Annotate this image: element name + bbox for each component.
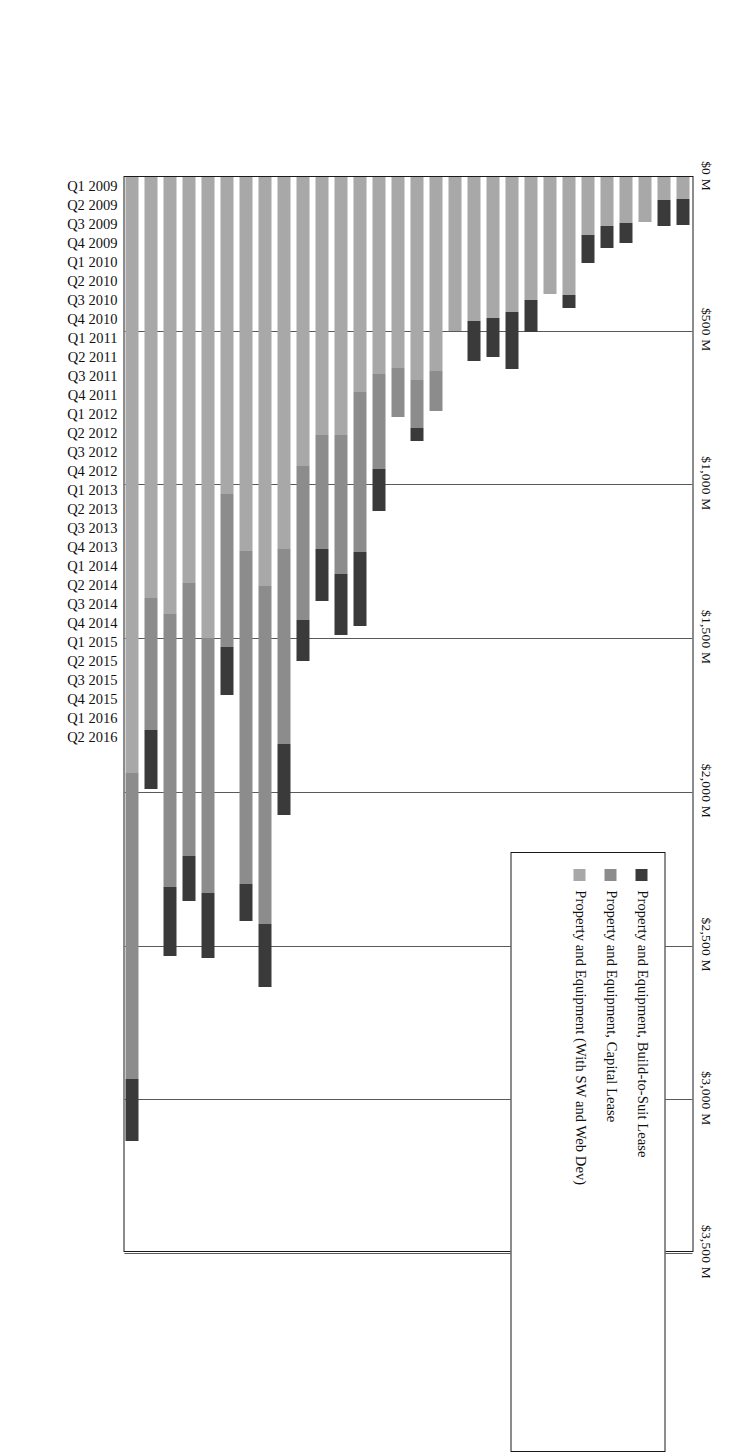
segment-build-to-suit-lease xyxy=(144,730,158,788)
segment-property-equipment xyxy=(220,177,234,494)
bar-row xyxy=(144,177,158,1251)
category-tick-label: Q3 2013 xyxy=(67,519,117,536)
segment-property-equipment xyxy=(296,177,310,466)
category-tick-label: Q2 2015 xyxy=(67,652,117,669)
legend-swatch-icon xyxy=(574,869,586,881)
segment-capital-lease xyxy=(258,586,272,924)
legend-swatch-icon xyxy=(636,869,648,881)
segment-build-to-suit-lease xyxy=(353,552,367,626)
legend-label: Property and Equipment, Capital Lease xyxy=(602,890,619,1122)
segment-build-to-suit-lease xyxy=(581,235,595,263)
legend-label: Property and Equipment, Build-to-Suit Le… xyxy=(633,890,650,1157)
segment-build-to-suit-lease xyxy=(182,856,196,901)
chart-legend: Property and Equipment, Build-to-Suit Le… xyxy=(510,852,665,1452)
segment-build-to-suit-lease xyxy=(125,1079,139,1140)
segment-property-equipment xyxy=(163,177,177,614)
segment-property-equipment xyxy=(258,177,272,586)
segment-build-to-suit-lease xyxy=(163,887,177,956)
bar-row xyxy=(125,177,139,1251)
category-tick-label: Q1 2016 xyxy=(67,709,117,726)
category-tick-label: Q3 2009 xyxy=(67,215,117,232)
segment-capital-lease xyxy=(334,435,348,573)
category-tick-label: Q4 2011 xyxy=(67,386,117,403)
category-tick-label: Q4 2014 xyxy=(67,614,117,631)
segment-property-equipment xyxy=(429,177,443,371)
value-tick-label: $2,500 M xyxy=(697,918,713,972)
segment-property-equipment xyxy=(524,177,538,300)
bar-row xyxy=(410,177,424,1251)
bar-row xyxy=(486,177,500,1251)
value-tick-label: $1,500 M xyxy=(697,610,713,664)
bar-row xyxy=(182,177,196,1251)
category-tick-label: Q2 2012 xyxy=(67,424,117,441)
segment-capital-lease xyxy=(144,598,158,730)
bar-row xyxy=(277,177,291,1251)
legend-item: Property and Equipment, Capital Lease xyxy=(602,869,619,1435)
category-tick-label: Q4 2012 xyxy=(67,462,117,479)
bar-row xyxy=(391,177,405,1251)
category-tick-label: Q3 2012 xyxy=(67,443,117,460)
segment-property-equipment xyxy=(581,177,595,235)
segment-property-equipment xyxy=(562,177,576,295)
segment-capital-lease xyxy=(296,466,310,620)
bar-row xyxy=(201,177,215,1251)
segment-property-equipment xyxy=(505,177,519,312)
segment-build-to-suit-lease xyxy=(296,620,310,662)
segment-capital-lease xyxy=(220,494,234,648)
segment-property-equipment xyxy=(334,177,348,435)
bar-row xyxy=(315,177,329,1251)
legend-item: Property and Equipment (With SW and Web … xyxy=(571,869,588,1435)
segment-capital-lease xyxy=(201,638,215,893)
segment-build-to-suit-lease xyxy=(372,469,386,511)
bar-row xyxy=(296,177,310,1251)
segment-capital-lease xyxy=(239,551,253,885)
segment-build-to-suit-lease xyxy=(467,321,481,361)
legend-label: Property and Equipment (With SW and Web … xyxy=(571,890,588,1185)
bar-row xyxy=(372,177,386,1251)
segment-property-equipment xyxy=(315,177,329,435)
category-tick-label: Q3 2010 xyxy=(67,291,117,308)
segment-property-equipment xyxy=(600,177,614,226)
segment-property-equipment xyxy=(391,177,405,368)
bar-row xyxy=(334,177,348,1251)
category-tick-label: Q2 2013 xyxy=(67,500,117,517)
segment-capital-lease xyxy=(353,392,367,552)
bar-row xyxy=(467,177,481,1251)
category-tick-label: Q2 2014 xyxy=(67,576,117,593)
segment-capital-lease xyxy=(182,583,196,857)
segment-property-equipment xyxy=(353,177,367,392)
segment-build-to-suit-lease xyxy=(562,295,576,307)
category-tick-label: Q1 2011 xyxy=(67,329,117,346)
value-tick-label: $3,500 M xyxy=(697,1225,713,1279)
segment-property-equipment xyxy=(410,177,424,380)
category-tick-label: Q3 2015 xyxy=(67,671,117,688)
category-tick-label: Q1 2014 xyxy=(67,557,117,574)
value-tick-label: $500 M xyxy=(697,308,713,352)
segment-build-to-suit-lease xyxy=(334,574,348,635)
category-tick-label: Q4 2009 xyxy=(67,234,117,251)
segment-capital-lease xyxy=(163,614,177,888)
bar-row xyxy=(163,177,177,1251)
category-tick-label: Q2 2009 xyxy=(67,196,117,213)
category-tick-label: Q2 2016 xyxy=(67,728,117,745)
segment-build-to-suit-lease xyxy=(486,318,500,356)
segment-build-to-suit-lease xyxy=(410,428,424,442)
segment-build-to-suit-lease xyxy=(524,300,538,332)
category-tick-label: Q1 2012 xyxy=(67,405,117,422)
segment-capital-lease xyxy=(391,368,405,417)
value-tick-label: $0 M xyxy=(697,161,713,191)
bar-row xyxy=(429,177,443,1251)
category-tick-label: Q4 2013 xyxy=(67,538,117,555)
segment-build-to-suit-lease xyxy=(239,884,253,921)
segment-build-to-suit-lease xyxy=(201,893,215,958)
bar-row xyxy=(258,177,272,1251)
segment-property-equipment xyxy=(277,177,291,549)
segment-property-equipment xyxy=(125,177,139,773)
legend-item: Property and Equipment, Build-to-Suit Le… xyxy=(633,869,650,1435)
segment-property-equipment xyxy=(657,177,671,200)
category-tick-label: Q2 2010 xyxy=(67,272,117,289)
category-tick-label: Q1 2009 xyxy=(67,177,117,194)
segment-property-equipment xyxy=(638,177,652,222)
